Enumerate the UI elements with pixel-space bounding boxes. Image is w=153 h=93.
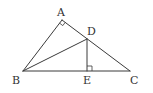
label-d: D [87, 25, 96, 38]
triangle-diagram: A B C D E [0, 0, 153, 93]
label-b: B [12, 74, 20, 87]
label-c: C [130, 74, 138, 87]
segment-ac [62, 20, 130, 71]
segment-ab [23, 20, 62, 71]
label-e: E [83, 74, 91, 87]
right-angle-mark-e [87, 66, 92, 71]
label-a: A [56, 6, 66, 19]
right-angle-mark-a [60, 22, 66, 25]
segment-bd [23, 39, 87, 71]
